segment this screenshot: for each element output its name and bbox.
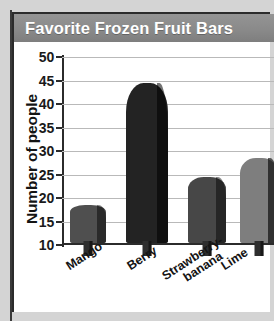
x-label-line1: Mango xyxy=(63,239,104,273)
x-label-line1: Berry xyxy=(124,243,159,273)
x-tick-label-berry: Berry xyxy=(125,244,159,272)
chart-figure: Favorite Frozen Fruit Bars Number of peo… xyxy=(0,0,274,321)
x-tick-label-mango: Mango xyxy=(64,240,105,273)
x-axis-labels: Mango Berry Strawberry- banana Lime xyxy=(0,0,274,321)
